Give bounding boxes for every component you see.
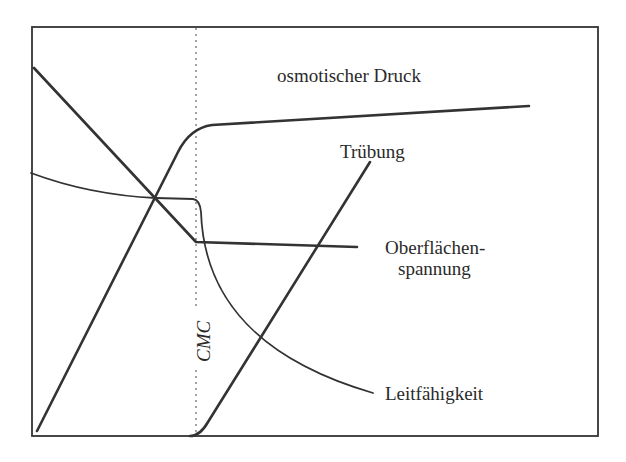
surface-tension-label-line2: spannung (398, 258, 471, 279)
cmc-chart: CMC osmotischer Druck Trübung Oberfläche… (0, 0, 626, 462)
turbidity-curve (190, 162, 370, 436)
cmc-label: CMC (193, 321, 214, 363)
turbidity-label: Trübung (340, 141, 405, 162)
surface-tension-label-line1: Oberflächen- (385, 237, 485, 258)
osmotic-pressure-label: osmotischer Druck (277, 65, 422, 86)
chart-frame (32, 27, 598, 436)
conductivity-label: Leitfähigkeit (385, 383, 484, 404)
